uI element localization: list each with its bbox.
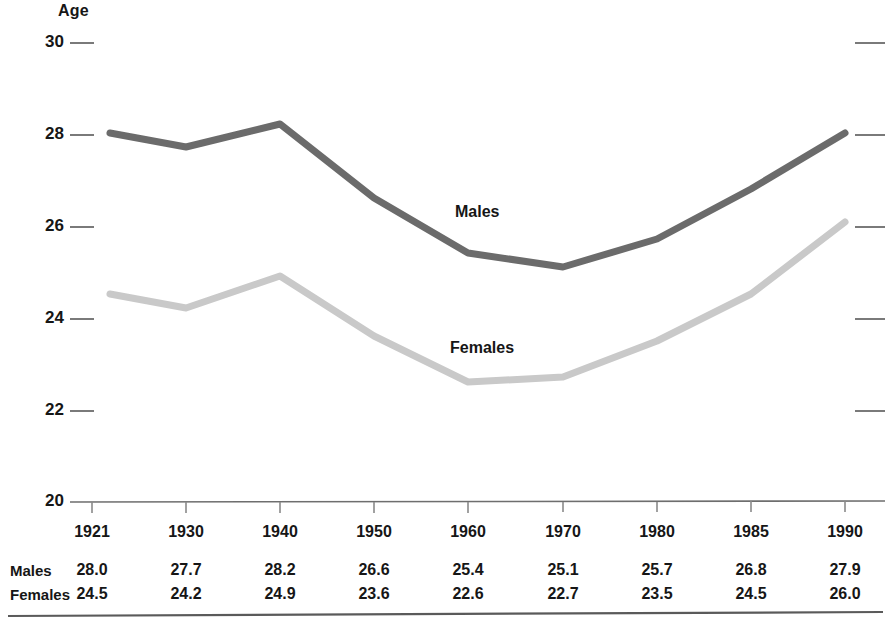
x-axis-tick-label-1950: 1950: [334, 523, 414, 541]
table-cell-females-1970: 22.7: [523, 585, 603, 603]
x-axis-tick-label-1960: 1960: [428, 523, 508, 541]
table-cell-males-1921: 28.0: [52, 561, 132, 579]
table-cell-males-1960: 25.4: [428, 561, 508, 579]
table-cell-males-1930: 27.7: [146, 561, 226, 579]
table-cell-males-1980: 25.7: [617, 561, 697, 579]
series-line-males: [110, 124, 845, 267]
series-annotation-females: Females: [450, 339, 514, 357]
table-cell-females-1940: 24.9: [240, 585, 320, 603]
table-cell-females-1960: 22.6: [428, 585, 508, 603]
series-line-females: [110, 222, 845, 382]
y-axis-left-ticks: [70, 43, 94, 411]
x-axis-tick-label-1970: 1970: [523, 523, 603, 541]
x-axis-tick-label-1940: 1940: [240, 523, 320, 541]
x-axis-tick-label-1980: 1980: [617, 523, 697, 541]
x-axis-ticks: [92, 501, 845, 513]
y-axis-right-ticks: [855, 43, 885, 411]
x-axis-tick-label-1990: 1990: [805, 523, 885, 541]
table-cell-males-1940: 28.2: [240, 561, 320, 579]
x-axis-tick-label-1921: 1921: [52, 523, 132, 541]
table-cell-males-1950: 26.6: [334, 561, 414, 579]
x-axis-tick-label-1985: 1985: [711, 523, 791, 541]
table-cell-males-1990: 27.9: [805, 561, 885, 579]
x-axis-tick-label-1930: 1930: [146, 523, 226, 541]
bottom-rule: [8, 612, 883, 616]
table-cell-females-1990: 26.0: [805, 585, 885, 603]
table-cell-females-1921: 24.5: [52, 585, 132, 603]
table-cell-females-1985: 24.5: [711, 585, 791, 603]
table-cell-females-1930: 24.2: [146, 585, 226, 603]
table-cell-females-1980: 23.5: [617, 585, 697, 603]
table-row-header-males: Males: [10, 562, 52, 579]
table-cell-males-1970: 25.1: [523, 561, 603, 579]
chart-figure: Age 30 28 26 24 22 20: [0, 0, 891, 629]
series-annotation-males: Males: [455, 203, 499, 221]
table-cell-females-1950: 23.6: [334, 585, 414, 603]
table-cell-males-1985: 26.8: [711, 561, 791, 579]
x-axis-baseline: [70, 501, 885, 502]
